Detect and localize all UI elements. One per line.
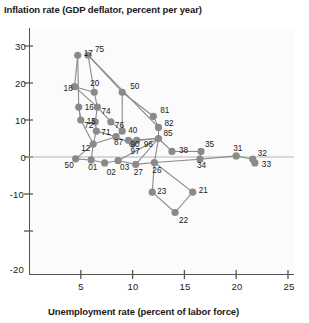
data-point — [132, 161, 139, 168]
data-point — [149, 189, 156, 196]
data-point — [91, 89, 98, 96]
data-point-label: 02 — [107, 168, 117, 177]
data-point-label: 50 — [65, 161, 75, 170]
data-point-label: 96 — [144, 140, 154, 149]
data-point-label: 12 — [81, 144, 91, 153]
data-point — [251, 159, 258, 166]
data-point-label: 85 — [164, 129, 174, 138]
data-point — [168, 148, 175, 155]
data-point-label: 35 — [205, 140, 215, 149]
data-point — [75, 103, 82, 110]
data-point-label: 32 — [258, 149, 268, 158]
data-point-label: 38 — [179, 146, 189, 155]
data-point — [93, 128, 100, 135]
series-segment — [154, 159, 200, 162]
data-point — [171, 209, 178, 216]
data-point-label: 27 — [134, 168, 144, 177]
data-point-label: 16 — [85, 103, 95, 112]
data-point-label: 33 — [262, 160, 272, 169]
data-point — [189, 189, 196, 196]
data-point — [233, 152, 240, 159]
data-point — [107, 118, 114, 125]
data-point-label: 26 — [152, 166, 162, 175]
data-point-label: 97 — [131, 147, 141, 156]
data-point-labels: 1718161520755074727671408182879096978512… — [64, 45, 272, 224]
data-point-label: 71 — [101, 128, 111, 137]
data-point — [90, 140, 97, 147]
data-point-label: 22 — [179, 216, 189, 225]
series-segment — [122, 92, 153, 116]
data-point-label: 20 — [90, 79, 100, 88]
data-point-label: 87 — [114, 138, 124, 147]
data-point-label: 34 — [197, 161, 207, 170]
data-point — [155, 135, 162, 142]
data-point-label: 74 — [101, 107, 111, 116]
data-point-label: 81 — [160, 106, 170, 115]
data-point — [119, 89, 126, 96]
data-point — [150, 113, 157, 120]
data-point — [94, 103, 101, 110]
series-segment — [78, 55, 79, 107]
data-point-label: 75 — [95, 45, 105, 54]
data-point — [101, 159, 108, 166]
data-point — [197, 148, 204, 155]
data-point-label: 21 — [199, 186, 209, 195]
data-point-label: 76 — [115, 121, 125, 130]
data-point-label: 82 — [165, 119, 175, 128]
data-point-label: 03 — [120, 163, 130, 172]
data-point-label: 18 — [64, 84, 74, 93]
data-point — [155, 124, 162, 131]
data-point-label: 17 — [84, 49, 94, 58]
series-segment — [75, 55, 78, 86]
series-segment — [200, 156, 236, 159]
data-point-label: 72 — [84, 121, 94, 130]
series-segment — [175, 192, 193, 212]
data-point-label: 23 — [157, 187, 167, 196]
chart-figure: Inflation rate (GDP deflator, percent pe… — [0, 0, 309, 323]
data-point — [74, 52, 81, 59]
data-point-label: 40 — [128, 126, 138, 135]
scatter-plot-svg: 1718161520755074727671408182879096978512… — [0, 0, 309, 323]
data-point-label: 01 — [88, 163, 98, 172]
data-point-label: 50 — [130, 82, 140, 91]
data-point-label: 31 — [233, 144, 243, 153]
